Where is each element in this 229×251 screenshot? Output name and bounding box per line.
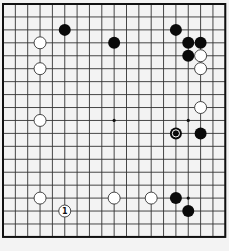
black-stone: [108, 37, 120, 49]
white-stone: [108, 192, 120, 204]
white-stone: [34, 114, 46, 126]
black-stone: [182, 50, 194, 62]
white-stone: [195, 102, 207, 114]
black-stone: [195, 127, 207, 139]
black-stone: [182, 37, 194, 49]
white-stone: [145, 192, 157, 204]
white-stone: [195, 63, 207, 75]
black-stone: [170, 24, 182, 36]
black-stone: [195, 37, 207, 49]
white-stone: [34, 192, 46, 204]
white-stone: [195, 50, 207, 62]
star-point: [187, 197, 190, 200]
white-stone: [34, 63, 46, 75]
star-point: [113, 119, 116, 122]
black-stone: [182, 205, 194, 217]
white-stone: 1: [59, 205, 71, 217]
black-stone: [170, 127, 182, 139]
move-number-label: 1: [62, 207, 68, 216]
black-stone: [170, 192, 182, 204]
black-stone: [59, 24, 71, 36]
white-stone: [34, 37, 46, 49]
go-board[interactable]: 1: [0, 0, 229, 251]
star-point: [187, 119, 190, 122]
